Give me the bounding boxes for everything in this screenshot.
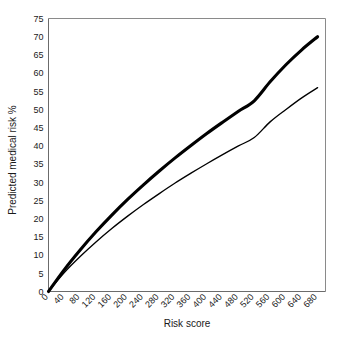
y-tick-label: 20	[33, 214, 43, 224]
y-tick-label: 15	[33, 232, 43, 242]
y-tick-label: 35	[33, 159, 43, 169]
y-tick-label: 10	[33, 250, 43, 260]
y-tick-label: 60	[33, 68, 43, 78]
y-tick-label: 5	[38, 269, 43, 279]
y-tick-label: 70	[33, 32, 43, 42]
y-tick-label: 30	[33, 178, 43, 188]
y-tick-label: 75	[33, 14, 43, 24]
y-axis-title: Predicted medical risk %	[7, 105, 18, 215]
y-tick-label: 40	[33, 141, 43, 151]
y-tick-label: 65	[33, 50, 43, 60]
y-tick-label: 25	[33, 196, 43, 206]
chart-figure: 051015202530354045505560657075 040801201…	[0, 0, 341, 337]
line-chart: 051015202530354045505560657075 040801201…	[0, 0, 341, 337]
y-tick-label: 45	[33, 123, 43, 133]
x-axis-title: Risk score	[164, 318, 211, 329]
y-tick-label: 55	[33, 87, 43, 97]
y-tick-label: 50	[33, 105, 43, 115]
